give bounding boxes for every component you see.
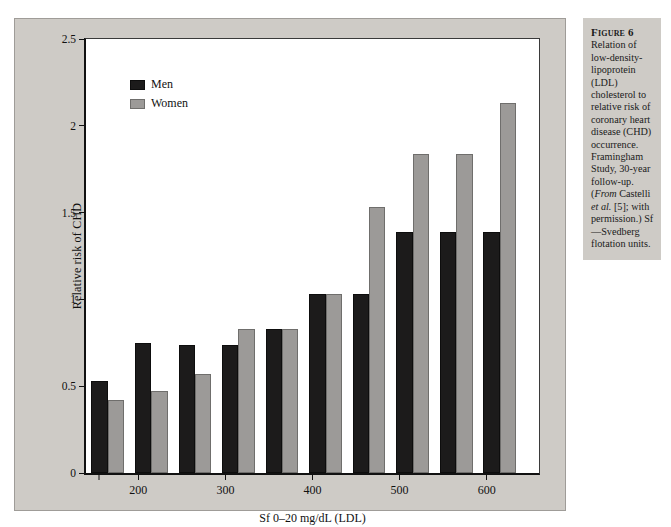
bar-women-4 — [282, 329, 298, 473]
chart-legend: Men Women — [130, 77, 188, 115]
x-tick-mark — [486, 473, 487, 480]
y-tick-label: 1.5 — [62, 207, 76, 219]
figure-panel: Relative risk of CHD 00.511.522.5 Men Wo… — [14, 18, 566, 511]
bar-men-1 — [135, 343, 151, 473]
y-tick-3: 1.5 — [62, 207, 86, 219]
x-tick-4: 500 — [391, 473, 409, 498]
bar-women-5 — [326, 294, 342, 473]
y-tick-mark — [79, 299, 86, 300]
bar-men-4 — [266, 329, 282, 473]
y-tick-label: 1 — [70, 293, 76, 305]
bar-women-3 — [238, 329, 254, 473]
bar-men-8 — [440, 232, 456, 473]
y-tick-5: 2.5 — [62, 33, 86, 45]
x-tick-2: 300 — [216, 473, 234, 498]
y-tick-mark — [79, 212, 86, 213]
bar-women-2 — [195, 374, 211, 473]
legend-swatch-men-icon — [130, 80, 145, 90]
y-tick-0: 0 — [70, 467, 86, 479]
y-tick-mark — [79, 386, 86, 387]
x-tick-0 — [99, 473, 100, 480]
y-tick-label: 2 — [70, 120, 76, 132]
x-tick-mark — [225, 473, 226, 480]
y-tick-label: 0 — [70, 467, 76, 479]
x-tick-1: 200 — [129, 473, 147, 498]
bar-men-7 — [396, 232, 412, 473]
bar-women-9 — [500, 103, 516, 473]
y-tick-4: 2 — [70, 120, 86, 132]
y-tick-mark — [79, 125, 86, 126]
x-tick-label: 600 — [478, 483, 496, 498]
legend-label-women: Women — [151, 96, 188, 111]
bar-women-1 — [151, 391, 167, 473]
x-tick-mark — [312, 473, 313, 480]
y-tick-label: 2.5 — [62, 33, 76, 45]
bar-men-2 — [179, 345, 195, 473]
figure-caption: Figure 6 Relation of low-density-lipopro… — [583, 18, 661, 260]
bar-men-0 — [91, 381, 107, 473]
y-tick-2: 1 — [70, 293, 86, 305]
bar-men-9 — [483, 232, 499, 473]
y-tick-label: 0.5 — [62, 380, 76, 392]
x-tick-mark — [138, 473, 139, 480]
bar-women-7 — [413, 154, 429, 473]
x-tick-label: 400 — [304, 483, 322, 498]
x-tick-label: 200 — [129, 483, 147, 498]
bar-women-8 — [456, 154, 472, 473]
bar-women-0 — [108, 400, 124, 473]
bar-women-6 — [369, 207, 385, 473]
figure-caption-label: Figure 6 — [591, 26, 654, 38]
x-axis-title: Sf 0–20 mg/dL (LDL) — [86, 511, 539, 526]
figure-caption-text: Relation of low-density-lipoprotein (LDL… — [591, 39, 653, 249]
x-tick-5: 600 — [478, 473, 496, 498]
legend-item-women: Women — [130, 96, 188, 111]
x-tick-3: 400 — [304, 473, 322, 498]
legend-label-men: Men — [151, 77, 173, 92]
x-tick-label: 500 — [391, 483, 409, 498]
bar-men-6 — [353, 294, 369, 473]
x-tick-label: 300 — [216, 483, 234, 498]
y-tick-mark — [79, 473, 86, 474]
legend-swatch-women-icon — [130, 99, 145, 109]
y-tick-mark — [79, 39, 86, 40]
y-tick-1: 0.5 — [62, 380, 86, 392]
plot-area: Relative risk of CHD 00.511.522.5 Men Wo… — [84, 38, 540, 475]
bar-men-3 — [222, 345, 238, 473]
x-tick-mark — [399, 473, 400, 480]
x-tick-mark — [99, 473, 100, 480]
legend-item-men: Men — [130, 77, 188, 92]
bar-men-5 — [309, 294, 325, 473]
